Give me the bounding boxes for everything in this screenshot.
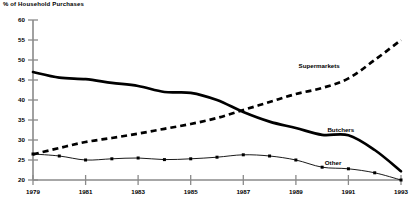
y-tick-label-55: 55	[18, 36, 25, 43]
series-label-other: Other	[325, 159, 342, 166]
data-point-marker	[400, 179, 403, 182]
y-tick-label-30: 30	[18, 136, 25, 143]
chart-plot-area: 60 55 50 45 40 35 30 25 20 1979 1981 198…	[0, 0, 415, 207]
data-point-marker	[321, 166, 324, 169]
chart-container: % of Household Purchases 60 55 50 45 40 …	[0, 0, 415, 207]
data-point-marker	[242, 153, 245, 156]
series-label-butchers: Butchers	[327, 126, 354, 133]
data-point-marker	[189, 157, 192, 160]
data-point-marker	[84, 159, 87, 162]
y-tick-label-35: 35	[18, 116, 25, 123]
data-point-marker	[58, 155, 61, 158]
data-point-marker	[163, 158, 166, 161]
x-tick-label-1981: 1981	[79, 188, 93, 195]
x-tick-label-1987: 1987	[236, 188, 250, 195]
data-point-marker	[268, 155, 271, 158]
x-tick-label-1983: 1983	[131, 188, 145, 195]
data-point-marker	[216, 156, 219, 159]
data-point-marker	[347, 167, 350, 170]
y-tick-label-50: 50	[18, 56, 25, 63]
series-label-supermarkets: Supermarkets	[299, 62, 341, 69]
y-tick-label-25: 25	[18, 156, 25, 163]
data-point-marker	[294, 159, 297, 162]
series-line-supermarkets	[33, 40, 401, 154]
series-markers-other	[32, 153, 403, 182]
x-tick-label-1993: 1993	[394, 188, 408, 195]
x-tick-label-1989: 1989	[289, 188, 303, 195]
x-tick-label-1985: 1985	[184, 188, 198, 195]
y-tick-label-45: 45	[18, 76, 25, 83]
data-point-marker	[32, 153, 35, 156]
x-tick-label-1991: 1991	[342, 188, 356, 195]
x-tick-label-1979: 1979	[26, 188, 40, 195]
data-point-marker	[373, 171, 376, 174]
data-point-marker	[110, 157, 113, 160]
y-tick-label-40: 40	[18, 96, 25, 103]
data-point-marker	[137, 157, 140, 160]
y-tick-label-20: 20	[18, 176, 25, 183]
y-tick-label-60: 60	[18, 16, 25, 23]
